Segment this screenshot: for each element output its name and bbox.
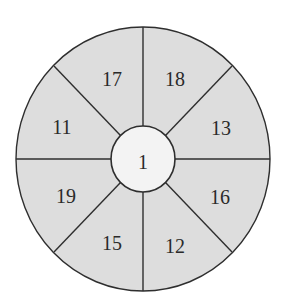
segment-right-upper: 13 (211, 117, 231, 139)
center-number: 1 (138, 151, 148, 173)
segment-bottom-right: 12 (165, 235, 185, 257)
number-wheel-diagram: 1 17 18 13 16 12 15 19 11 (0, 0, 286, 303)
segment-left-lower: 19 (56, 185, 76, 207)
segment-top-left: 17 (102, 68, 122, 90)
segment-bottom-left: 15 (102, 232, 122, 254)
segment-left-upper: 11 (52, 116, 71, 138)
segment-top-right: 18 (165, 68, 185, 90)
segment-right-lower: 16 (210, 186, 230, 208)
